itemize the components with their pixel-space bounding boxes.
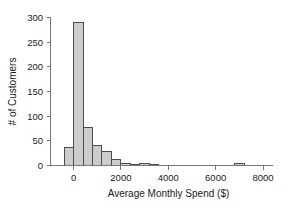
histogram-figure: 050100150200250300 02000400060008000 Ave… [0,0,293,211]
x-axis-ticks: 02000400060008000 [71,166,274,183]
y-tick-label: 200 [27,61,43,72]
y-tick-label: 100 [27,111,43,122]
bars-group [64,22,244,165]
x-tick-label: 4000 [158,172,179,183]
x-tick-label: 8000 [252,172,273,183]
y-axis-ticks: 050100150200250300 [27,12,50,171]
y-tick-label: 150 [27,86,43,97]
histogram-bar [92,146,101,166]
histogram-canvas: 050100150200250300 02000400060008000 Ave… [0,0,293,211]
y-tick-label: 250 [27,37,43,48]
histogram-bar [74,22,83,165]
x-tick-label: 0 [71,172,76,183]
x-axis-title: Average Monthly Spend ($) [108,188,230,199]
y-tick-label: 50 [32,135,43,146]
y-tick-label: 0 [38,160,43,171]
histogram-bar [83,128,92,166]
y-axis-title: # of Customers [7,58,18,126]
x-tick-label: 6000 [205,172,226,183]
x-tick-label: 2000 [110,172,131,183]
y-tick-label: 300 [27,12,43,23]
histogram-bar [111,160,120,166]
histogram-bar [64,147,73,165]
histogram-bar [102,151,111,165]
